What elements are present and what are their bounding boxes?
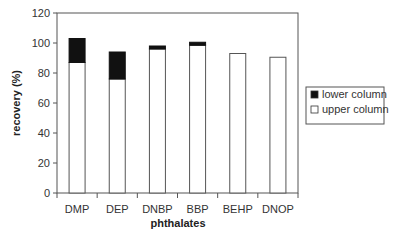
bar-lower-column-dmp (69, 39, 85, 63)
plot-area (57, 13, 298, 193)
bar-upper-column-bbp (190, 45, 206, 193)
bar-lower-column-dep (109, 52, 125, 79)
bar-lower-column-bbp (190, 42, 206, 45)
plot-frame (57, 13, 298, 193)
legend-label: lower column (322, 88, 387, 100)
x-tick-label: DEP (106, 203, 129, 215)
bar-lower-column-dnbp (149, 46, 165, 49)
bar-upper-column-dnop (270, 57, 286, 193)
bar-upper-column-behp (230, 54, 246, 194)
x-tick-label: DNBP (142, 203, 173, 215)
y-axis-title: recovery (%) (10, 70, 22, 136)
legend: lower columnupper column (306, 87, 389, 124)
y-tick-label: 40 (38, 127, 50, 139)
bar-upper-column-dnbp (149, 49, 165, 193)
x-tick-label: DNOP (262, 203, 294, 215)
bar-upper-column-dep (109, 79, 125, 193)
x-axis: DMPDEPDNBPBBPBEHPDNOP (57, 193, 298, 215)
legend-swatch-upper-column (311, 106, 318, 113)
legend-label: upper column (322, 103, 389, 115)
x-axis-title: phthalates (150, 217, 205, 229)
y-axis: 020406080100120 (32, 7, 57, 199)
x-tick-label: DMP (65, 203, 89, 215)
y-tick-label: 60 (38, 97, 50, 109)
x-tick-label: BBP (187, 203, 209, 215)
y-tick-label: 120 (32, 7, 50, 19)
x-tick-label: BEHP (223, 203, 253, 215)
recovery-bar-chart: 020406080100120 DMPDEPDNBPBBPBEHPDNOP re… (0, 0, 394, 241)
y-tick-label: 100 (32, 37, 50, 49)
bar-upper-column-dmp (69, 63, 85, 194)
y-tick-label: 80 (38, 67, 50, 79)
y-tick-label: 0 (44, 187, 50, 199)
y-tick-label: 20 (38, 157, 50, 169)
legend-swatch-lower-column (311, 91, 318, 98)
